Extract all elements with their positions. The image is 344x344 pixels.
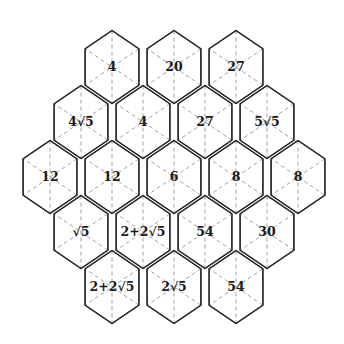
hexagon-label: 2+2√5	[121, 226, 166, 239]
hexagon-label: 6	[170, 171, 179, 184]
hexagon-label: 8	[294, 171, 303, 184]
hexagon-label: 2√5	[161, 281, 187, 294]
hexagon-label: 12	[103, 171, 120, 184]
hexagon-label: 4	[139, 116, 148, 129]
hexagon-label: 4	[108, 61, 117, 74]
hexagon-label: 12	[41, 171, 58, 184]
hexagon-label: 20	[165, 61, 182, 74]
hexagon-label: 54	[227, 281, 244, 294]
hexagon-label: √5	[73, 226, 90, 239]
hexagon-label: 54	[196, 226, 213, 239]
hexagon-label: 5√5	[254, 116, 280, 129]
hexagon-label: 8	[232, 171, 241, 184]
hex-grid-diagram: 420274√54275√51212688√52+2√554302+2√52√5…	[0, 0, 344, 344]
hexagon-label: 30	[258, 226, 275, 239]
hexagon-label: 27	[227, 61, 244, 74]
hexagon-label: 4√5	[68, 116, 94, 129]
hexagon-label: 2+2√5	[90, 281, 135, 294]
hexagon-label: 27	[196, 116, 213, 129]
